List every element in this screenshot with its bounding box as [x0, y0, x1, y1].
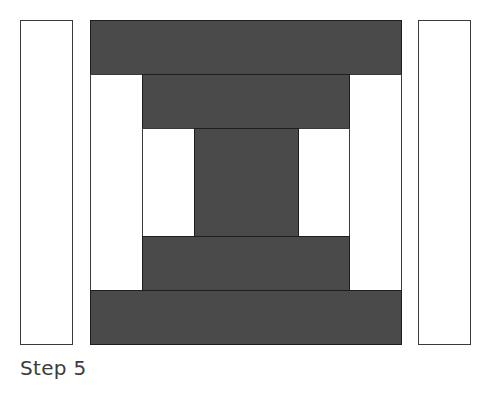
right-light-strip-inner	[298, 128, 350, 237]
left-light-strip-outer	[90, 74, 143, 291]
left-light-strip-inner	[142, 128, 195, 237]
right-loose-strip	[418, 20, 471, 345]
bottom-dark-strip-inner	[142, 236, 350, 291]
step-caption: Step 5	[20, 356, 86, 380]
left-loose-strip	[20, 20, 73, 345]
top-dark-strip-inner	[142, 74, 350, 129]
bottom-dark-strip-outer	[90, 290, 402, 345]
right-light-strip-outer	[349, 74, 402, 291]
center-square	[194, 128, 299, 237]
top-dark-strip-outer	[90, 20, 402, 75]
